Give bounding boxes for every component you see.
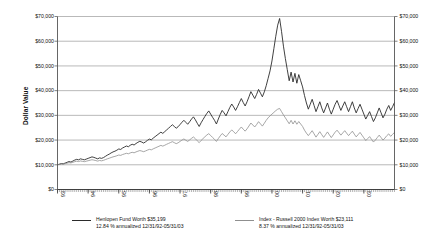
x-axis-tick-label: 94 [90,191,96,197]
legend-swatch-index [235,220,254,221]
legend-swatch-fund [72,220,91,221]
x-axis-tick-label: 99 [244,191,250,197]
legend-entry-fund: Henlopen Fund Worth $35,199 12.84 % annu… [72,216,184,231]
x-axis-tick-label: 03 [366,191,372,197]
x-axis-tick-label: 95 [121,191,127,197]
y-axis-tick-label-left: $60,000 [14,38,54,44]
y-axis-tick-label-right: $40,000 [400,87,431,93]
legend-fund-line2: 12.84 % annualized 12/31/92-05/31/03 [96,223,184,230]
y-axis-tick-label-right: $70,000 [400,13,431,19]
x-axis-tick-label: 93 [60,191,66,197]
y-axis-tick-label-right: $60,000 [400,38,431,44]
legend-text-index: Index - Russell 2000 Index Worth $23,111… [259,216,353,231]
y-axis-tick-label-right: $50,000 [400,63,431,69]
x-axis-tick-label: 00 [274,191,280,197]
chart-plot-area [0,0,431,249]
y-axis-tick-label-left: $30,000 [14,112,54,118]
y-axis-tick-label-left: $70,000 [14,13,54,19]
y-axis-tick-label-left: $10,000 [14,162,54,168]
legend-index-line1: Index - Russell 2000 Index Worth $23,111 [259,216,353,223]
y-axis-tick-label-right: $0 [400,186,431,192]
legend-fund-line1: Henlopen Fund Worth $35,199 [96,216,184,223]
x-axis-tick-label: 96 [152,191,158,197]
growth-of-investment-chart: Dollar Value $0$10,000$20,000$30,000$40,… [0,0,431,249]
x-axis-tick-label: 01 [305,191,311,197]
x-axis-tick-label: 97 [182,191,188,197]
legend-text-fund: Henlopen Fund Worth $35,199 12.84 % annu… [96,216,184,231]
chart-legend: Henlopen Fund Worth $35,199 12.84 % annu… [0,214,431,249]
x-axis-tick-label: 02 [335,191,341,197]
y-axis-tick-label-right: $20,000 [400,137,431,143]
y-axis-tick-label-right: $10,000 [400,162,431,168]
legend-index-line2: 8.37 % annualized 12/31/92-05/31/03 [259,223,353,230]
y-axis-tick-label-left: $50,000 [14,63,54,69]
x-axis-tick-label: 98 [213,191,219,197]
y-axis-tick-label-left: $0 [14,186,54,192]
y-axis-tick-label-right: $30,000 [400,112,431,118]
y-axis-tick-label-left: $20,000 [14,137,54,143]
legend-entry-index: Index - Russell 2000 Index Worth $23,111… [235,216,353,231]
y-axis-tick-label-left: $40,000 [14,87,54,93]
series-lines [58,18,395,164]
